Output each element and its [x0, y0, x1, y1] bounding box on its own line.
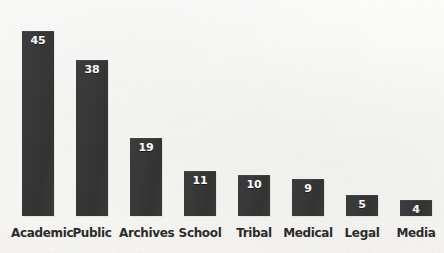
bar-group[interactable]: 38	[76, 60, 108, 216]
bar-group[interactable]: 10	[238, 175, 270, 216]
category-label-legal: Legal	[335, 226, 389, 240]
category-label-medical: Medical	[281, 226, 335, 240]
bar-value-label: 38	[76, 64, 108, 76]
bar-group[interactable]: 5	[346, 195, 378, 216]
bar[interactable]: 4	[400, 200, 432, 216]
bar[interactable]: 38	[76, 60, 108, 216]
bar-value-label: 45	[22, 35, 54, 47]
bar-value-label: 4	[400, 204, 432, 216]
bar[interactable]: 9	[292, 179, 324, 216]
bar[interactable]: 10	[238, 175, 270, 216]
category-label-tribal: Tribal	[227, 226, 281, 240]
category-axis: AcademicPublicArchivesSchoolTribalMedica…	[0, 216, 444, 253]
bar-group[interactable]: 45	[22, 31, 54, 216]
bar-group[interactable]: 9	[292, 179, 324, 216]
category-label-academic: Academic	[11, 226, 65, 240]
category-label-archives: Archives	[119, 226, 173, 240]
category-label-media: Media	[389, 226, 443, 240]
bar-group[interactable]: 4	[400, 200, 432, 216]
bar-value-label: 19	[130, 142, 162, 154]
bar[interactable]: 45	[22, 31, 54, 216]
bar[interactable]: 5	[346, 195, 378, 216]
bar[interactable]: 19	[130, 138, 162, 216]
category-label-school: School	[173, 226, 227, 240]
bar[interactable]: 11	[184, 171, 216, 216]
bar-group[interactable]: 19	[130, 138, 162, 216]
bar-group[interactable]: 11	[184, 171, 216, 216]
plot-area: 4538191110954	[0, 0, 444, 216]
bar-value-label: 5	[346, 199, 378, 211]
bar-chart: 4538191110954 AcademicPublicArchivesScho…	[0, 0, 444, 253]
category-label-public: Public	[65, 226, 119, 240]
bar-value-label: 9	[292, 183, 324, 195]
bar-value-label: 11	[184, 175, 216, 187]
bar-value-label: 10	[238, 179, 270, 191]
